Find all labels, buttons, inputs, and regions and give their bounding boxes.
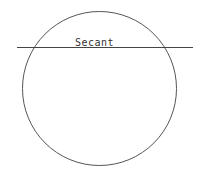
secant-diagram: Secant xyxy=(0,0,206,169)
secant-label: Secant xyxy=(75,37,114,48)
circle xyxy=(23,12,177,166)
